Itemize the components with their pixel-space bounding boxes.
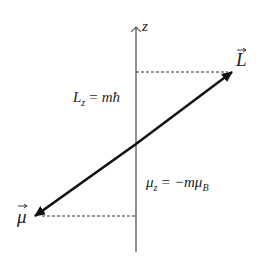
diagram-canvas: z L μ Lz=mħ μz=−mμB [0, 0, 259, 261]
lz-equation: Lz=mħ [72, 89, 120, 108]
magnetic-moment-vector [35, 144, 136, 216]
z-axis-label: z [141, 18, 148, 34]
angular-momentum-vector [136, 72, 232, 144]
muz-equation: μz=−mμB [145, 174, 209, 193]
angular-momentum-label: L [235, 48, 247, 70]
svg-text:L: L [235, 49, 247, 70]
svg-text:μz=−mμB: μz=−mμB [145, 174, 209, 193]
svg-text:μ: μ [16, 206, 27, 227]
magnetic-moment-label: μ [16, 204, 27, 227]
svg-text:Lz=mħ: Lz=mħ [72, 89, 120, 108]
